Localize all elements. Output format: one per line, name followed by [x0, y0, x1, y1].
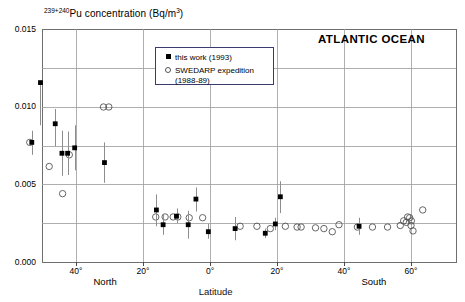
data-point-this-work — [174, 214, 179, 219]
y-axis-title-superscript: 239+240 — [44, 7, 70, 14]
data-point-this-work — [263, 231, 268, 236]
x-tick-label: 20° — [262, 266, 292, 276]
data-point-this-work — [278, 194, 283, 199]
legend-entry-this-work: this work (1993) — [161, 53, 232, 63]
data-point-this-work — [72, 145, 77, 150]
data-point-this-work — [53, 121, 58, 126]
data-point-this-work — [154, 208, 159, 213]
x-tick-label: 40° — [61, 266, 91, 276]
y-axis-title-main: Pu concentration (Bq/m — [70, 8, 177, 19]
data-point-this-work — [65, 151, 70, 156]
x-tick-label: 60° — [396, 266, 426, 276]
data-point-this-work — [357, 224, 362, 229]
data-point-this-work — [194, 197, 199, 202]
y-axis-title: 239+240Pu concentration (Bq/m3) — [44, 7, 183, 19]
legend-label-swedarp-line1: SWEDARP expedition — [175, 66, 254, 75]
data-point-this-work — [233, 226, 238, 231]
legend-label-swedarp: SWEDARP expedition(1988-89) — [175, 66, 254, 85]
legend-label-this-work: this work (1993) — [175, 53, 232, 63]
y-tick-label: 0.010 — [0, 101, 36, 111]
x-tick-label: 0° — [195, 266, 225, 276]
open-circle-icon — [161, 66, 175, 73]
data-point-this-work — [161, 222, 166, 227]
x-tick-label: 20° — [128, 266, 158, 276]
y-tick-label: 0.005 — [0, 179, 36, 189]
legend-entry-swedarp: SWEDARP expedition(1988-89) — [161, 66, 254, 85]
hemisphere-label-north: North — [94, 276, 117, 287]
x-axis-title: Latitude — [199, 286, 233, 297]
filled-square-icon — [161, 53, 175, 59]
chart-figure: 239+240Pu concentration (Bq/m3) ATLANTIC… — [0, 0, 465, 302]
legend-label-swedarp-line2: (1988-89) — [175, 76, 210, 85]
ocean-annotation: ATLANTIC OCEAN — [318, 33, 425, 45]
data-point-this-work — [206, 229, 211, 234]
y-tick-label: 0.000 — [0, 257, 36, 267]
x-tick-label: 40° — [329, 266, 359, 276]
hemisphere-label-south: South — [362, 276, 387, 287]
y-axis-title-tail: ) — [180, 8, 183, 19]
scatter-plot-canvas — [0, 0, 465, 302]
data-point-this-work — [102, 160, 107, 165]
data-point-this-work — [273, 222, 278, 227]
data-point-this-work — [186, 222, 191, 227]
chart-legend: this work (1993) SWEDARP expedition(1988… — [155, 47, 274, 85]
data-point-this-work — [38, 80, 43, 85]
y-tick-label: 0.015 — [0, 24, 36, 34]
data-point-this-work — [60, 151, 65, 156]
data-point-this-work — [29, 140, 34, 145]
